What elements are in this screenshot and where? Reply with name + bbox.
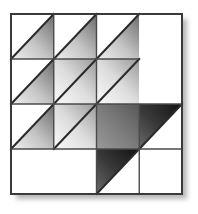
cell-r4c2-empty [54, 149, 97, 194]
cell-r2c4-empty [139, 59, 182, 104]
figure-root [0, 0, 198, 214]
cell-r4c4-empty [139, 149, 182, 194]
cell-r1c4-empty [139, 14, 182, 59]
triangle-grid-diagram [0, 0, 198, 214]
cell-r4c1-empty [11, 149, 54, 194]
cell-r3c3-full [97, 104, 140, 149]
